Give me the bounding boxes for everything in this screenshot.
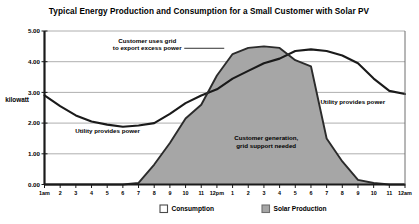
- x-tick-label: 3: [262, 190, 265, 196]
- y-tick-label: 5.00: [28, 27, 41, 34]
- energy-production-consumption-chart: Typical Energy Production and Consumptio…: [0, 0, 419, 224]
- x-tick-label: 5: [294, 190, 297, 196]
- x-tick-label: 2: [247, 190, 250, 196]
- y-tick-label: 2.00: [28, 119, 41, 126]
- x-tick-label: 3: [74, 190, 77, 196]
- x-tick-label: 10: [371, 190, 377, 196]
- x-tick-label: 6: [309, 190, 312, 196]
- x-tick-label: 11: [198, 190, 204, 196]
- x-tick-label: 9: [356, 190, 359, 196]
- x-tick-label: 1am: [39, 190, 50, 196]
- chart-title: Typical Energy Production and Consumptio…: [49, 7, 370, 16]
- annotation-label: grid support needed: [236, 142, 296, 149]
- legend-label: Consumption: [172, 205, 215, 213]
- x-tick-label: 11: [386, 190, 392, 196]
- x-tick-label: 1: [231, 190, 234, 196]
- y-tick-label: 4.00: [28, 58, 41, 65]
- x-tick-label: 6: [121, 190, 124, 196]
- legend-swatch: [262, 205, 270, 213]
- x-tick-label: 4: [278, 190, 281, 196]
- y-tick-label: 0.00: [28, 181, 41, 188]
- x-tick-label: 8: [341, 190, 344, 196]
- x-tick-label: 5: [106, 190, 109, 196]
- x-tick-label: 8: [153, 190, 156, 196]
- legend-swatch: [160, 205, 168, 213]
- x-tick-label: 12pm: [210, 190, 224, 196]
- annotation-label: Customer uses grid: [118, 37, 176, 44]
- x-tick-label: 7: [325, 190, 328, 196]
- y-tick-label: 1.00: [28, 150, 41, 157]
- x-tick-label: 12am: [398, 190, 412, 196]
- y-tick-label: 3.00: [28, 89, 41, 96]
- x-tick-label: 9: [168, 190, 171, 196]
- chart-container: Typical Energy Production and Consumptio…: [0, 0, 419, 224]
- annotation-label: Utility provides power: [75, 127, 140, 134]
- annotation-label: Utility provides power: [320, 98, 385, 105]
- x-tick-label: 4: [90, 190, 93, 196]
- x-tick-label: 7: [137, 190, 140, 196]
- annotation-label: to export excess power: [113, 44, 182, 51]
- x-tick-label: 2: [59, 190, 62, 196]
- x-tick-label: 10: [183, 190, 189, 196]
- legend-label: Solar Production: [274, 205, 327, 212]
- annotation-label: Customer generation,: [234, 134, 298, 141]
- y-axis-label: kilowatt: [5, 96, 30, 103]
